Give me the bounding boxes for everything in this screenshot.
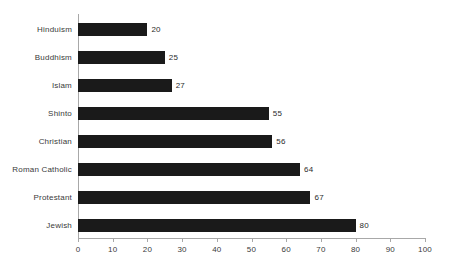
x-tick bbox=[321, 238, 322, 242]
bar-buddhism bbox=[78, 51, 165, 64]
bar-value-label: 80 bbox=[360, 220, 369, 231]
bar-row: 20 bbox=[78, 23, 425, 36]
bar-row: 27 bbox=[78, 79, 425, 92]
category-label-shinto: Shinto bbox=[0, 108, 72, 119]
bar-christian bbox=[78, 135, 272, 148]
bar-value-label: 64 bbox=[304, 164, 313, 175]
x-tick bbox=[286, 238, 287, 242]
x-tick-label: 80 bbox=[343, 245, 369, 255]
bar-roman-catholic bbox=[78, 163, 300, 176]
bar-value-label: 25 bbox=[169, 52, 178, 63]
category-label-jewish: Jewish bbox=[0, 220, 72, 231]
x-tick bbox=[217, 238, 218, 242]
category-label-islam: Islam bbox=[0, 80, 72, 91]
x-tick-label: 60 bbox=[273, 245, 299, 255]
x-tick-label: 100 bbox=[412, 245, 438, 255]
bar-row: 56 bbox=[78, 135, 425, 148]
bar-protestant bbox=[78, 191, 310, 204]
x-tick-label: 40 bbox=[204, 245, 230, 255]
bar-jewish bbox=[78, 219, 356, 232]
bar-value-label: 55 bbox=[273, 108, 282, 119]
x-tick bbox=[78, 238, 79, 242]
category-label-christian: Christian bbox=[0, 136, 72, 147]
category-label-buddhism: Buddhism bbox=[0, 52, 72, 63]
bar-row: 55 bbox=[78, 107, 425, 120]
category-label-roman-catholic: Roman Catholic bbox=[0, 164, 72, 175]
bar-row: 64 bbox=[78, 163, 425, 176]
x-tick bbox=[182, 238, 183, 242]
bar-row: 80 bbox=[78, 219, 425, 232]
bar-hinduism bbox=[78, 23, 147, 36]
bar-value-label: 56 bbox=[276, 136, 285, 147]
x-tick bbox=[113, 238, 114, 242]
bar-value-label: 20 bbox=[151, 24, 160, 35]
x-tick-label: 10 bbox=[100, 245, 126, 255]
x-tick bbox=[356, 238, 357, 242]
bar-shinto bbox=[78, 107, 269, 120]
category-label-hinduism: Hinduism bbox=[0, 24, 72, 35]
bar-row: 25 bbox=[78, 51, 425, 64]
x-tick-label: 30 bbox=[169, 245, 195, 255]
bar-chart: 0102030405060708090100 2025275556646780 … bbox=[0, 0, 449, 274]
y-axis-line bbox=[78, 14, 79, 238]
bar-row: 67 bbox=[78, 191, 425, 204]
x-tick-label: 50 bbox=[239, 245, 265, 255]
bar-value-label: 67 bbox=[314, 192, 323, 203]
bar-islam bbox=[78, 79, 172, 92]
x-tick bbox=[390, 238, 391, 242]
x-tick-label: 0 bbox=[65, 245, 91, 255]
x-tick bbox=[252, 238, 253, 242]
x-tick bbox=[147, 238, 148, 242]
category-label-protestant: Protestant bbox=[0, 192, 72, 203]
x-tick-label: 90 bbox=[377, 245, 403, 255]
x-tick bbox=[425, 238, 426, 242]
bar-value-label: 27 bbox=[176, 80, 185, 91]
x-tick-label: 20 bbox=[134, 245, 160, 255]
x-tick-label: 70 bbox=[308, 245, 334, 255]
